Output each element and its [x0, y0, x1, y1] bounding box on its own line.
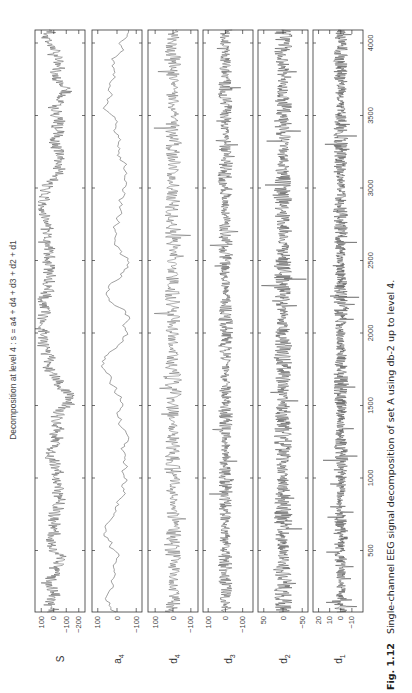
eeg-decomposition-figure: Decomposition at level 4 : s = a4 + d4 +… [0, 0, 412, 693]
figure-caption: Fig. 1.12 Single-channel EEG signal deco… [380, 280, 397, 690]
panel-d2: 500−50d2 [258, 30, 308, 664]
ytick-label: 0 [279, 616, 288, 620]
chart-title-text: Decomposition at level 4 : s = a4 + d4 +… [8, 240, 18, 440]
signal-trace-S [35, 30, 75, 612]
panel-label-d4: d4 [168, 654, 181, 664]
subplot-panels: 1000−100−200S1000−100a41000−100d41000−10… [35, 30, 363, 664]
ytick-label: 0 [336, 616, 345, 620]
xtick-label: 2000 [366, 325, 375, 342]
ytick-label: −100 [238, 616, 247, 633]
ytick-label: 0 [113, 616, 122, 620]
xtick-label: 3000 [366, 180, 375, 197]
ytick-label: 100 [204, 616, 213, 629]
xtick-label: 4000 [366, 35, 375, 52]
ytick-label: −100 [186, 616, 195, 633]
xtick-label: 500 [366, 544, 375, 557]
panel-label-S: S [55, 655, 66, 662]
panel-frame-a4 [92, 30, 142, 612]
ytick-label: 100 [151, 616, 160, 629]
x-axis: 5001000150020002500300035004000 [366, 35, 375, 557]
panel-d1: 20100−10d1 [313, 30, 363, 664]
chart-title: Decomposition at level 4 : s = a4 + d4 +… [8, 240, 18, 440]
signal-trace-a4 [101, 30, 129, 612]
panel-label-d1: d1 [333, 654, 346, 664]
ytick-label: 0 [49, 616, 58, 620]
panel-label-d3: d3 [223, 654, 236, 664]
ytick-label: −200 [74, 616, 83, 633]
panel-a4: 1000−100a4 [92, 30, 142, 664]
xtick-label: 2500 [366, 252, 375, 269]
signal-trace-d2 [261, 30, 306, 612]
panel-label-d2: d2 [278, 654, 291, 664]
panel-label-a4: a4 [112, 654, 125, 664]
ytick-label: 50 [259, 616, 268, 624]
ytick-label: −100 [132, 616, 141, 633]
signal-trace-d1 [323, 30, 359, 612]
panel-d4: 1000−100d4 [148, 30, 198, 664]
signal-trace-d3 [209, 30, 241, 612]
signal-trace-d4 [154, 30, 191, 612]
xtick-label: 3500 [366, 107, 375, 124]
panel-S: 1000−100−200S [35, 30, 85, 662]
caption-text: Single-channel EEG signal decomposition … [385, 280, 396, 634]
ytick-label: 20 [314, 616, 323, 624]
ytick-label: 100 [37, 616, 46, 629]
ytick-label: 10 [325, 616, 334, 624]
ytick-label: −50 [298, 616, 307, 629]
xtick-label: 1000 [366, 470, 375, 487]
ytick-label: 100 [93, 616, 102, 629]
xtick-label: 1500 [366, 397, 375, 414]
ytick-label: 0 [221, 616, 230, 620]
ytick-label: −100 [62, 616, 71, 633]
ytick-label: 0 [169, 616, 178, 620]
caption-label: Fig. 1.12 [385, 643, 396, 690]
svg-text:Fig. 1.12 Single-channel: Fig. 1.12 Single-channel EEG signal deco… [380, 280, 397, 690]
ytick-label: −10 [347, 616, 356, 629]
panel-d3: 1000−100d3 [203, 30, 253, 664]
panel-frame-d3 [203, 30, 253, 612]
